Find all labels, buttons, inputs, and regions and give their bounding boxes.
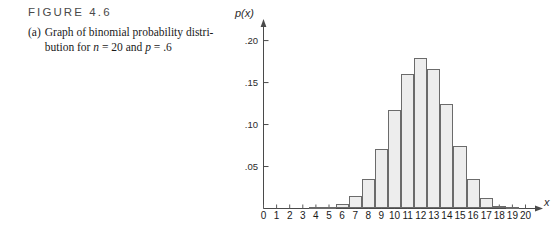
histogram-bar <box>309 207 322 209</box>
x-axis-tick-label: 1 <box>274 210 280 221</box>
y-axis-tick-label: .15 <box>232 77 258 88</box>
figure-caption-body: (a) Graph of binomial probability distri… <box>28 25 218 54</box>
x-axis-tick-label: 13 <box>428 210 439 221</box>
x-axis-tick-label: 11 <box>402 210 412 221</box>
caption-line-2-prefix: bution for <box>45 41 94 53</box>
histogram-bar <box>480 198 493 208</box>
x-axis-tick-label: 0 <box>261 210 267 221</box>
x-axis-tick-label: 10 <box>389 210 400 221</box>
y-axis-title: p(x) <box>235 7 254 19</box>
y-axis-tick-label: .20 <box>232 35 258 46</box>
caption-equation-1: = 20 and <box>99 41 145 53</box>
histogram-bar <box>322 207 335 209</box>
x-axis-tick-label: 9 <box>379 210 385 221</box>
x-axis-tick-label: 6 <box>339 210 345 221</box>
histogram-bar <box>440 104 453 208</box>
binomial-distribution-chart: .05.10.15.20 012345678910111213141516171… <box>232 0 557 234</box>
histogram-bar <box>414 58 427 209</box>
caption-line-1: Graph of binomial probability distri- <box>45 26 214 38</box>
histogram-bar <box>467 179 480 208</box>
x-axis-tick-label: 7 <box>352 210 358 221</box>
x-axis-tick-label: 12 <box>415 210 426 221</box>
x-axis-tick-label: 18 <box>494 210 505 221</box>
figure-label: FIGURE 4.6 <box>28 6 218 18</box>
histogram-bar <box>388 110 401 208</box>
x-axis-tick-label: 3 <box>300 210 306 221</box>
x-axis-tick-label: 17 <box>481 210 492 221</box>
histogram-bar <box>349 196 362 208</box>
histogram-bar <box>506 207 519 209</box>
figure-caption-block: FIGURE 4.6 (a) Graph of binomial probabi… <box>28 6 218 54</box>
x-axis-tick-label: 8 <box>366 210 372 221</box>
x-axis-tick-label: 5 <box>326 210 332 221</box>
histogram-bars <box>232 0 557 234</box>
caption-equation-2: = .6 <box>151 41 172 53</box>
histogram-bar <box>427 69 440 208</box>
caption-text: Graph of binomial probability distri-but… <box>45 25 218 54</box>
plot-area: .05.10.15.20 012345678910111213141516171… <box>232 0 557 234</box>
x-axis-tick-label: 14 <box>441 210 452 221</box>
x-axis-tick-label: 19 <box>507 210 518 221</box>
histogram-bar <box>362 179 375 209</box>
histogram-bar <box>493 206 506 209</box>
x-axis-tick-label: 16 <box>468 210 479 221</box>
histogram-bar <box>336 204 349 208</box>
x-axis-tick-label: 15 <box>454 210 465 221</box>
x-axis-tick-label: 2 <box>287 210 293 221</box>
y-axis-tick-label: .10 <box>232 119 258 130</box>
x-axis-title: x <box>544 196 550 208</box>
caption-item-marker: (a) <box>28 25 45 40</box>
x-axis-tick-label: 20 <box>520 210 531 221</box>
histogram-bar <box>375 149 388 209</box>
histogram-bar <box>453 146 466 209</box>
x-axis-tick-label: 4 <box>313 210 319 221</box>
histogram-bar <box>401 74 414 208</box>
y-axis-tick-label: .05 <box>232 161 258 172</box>
